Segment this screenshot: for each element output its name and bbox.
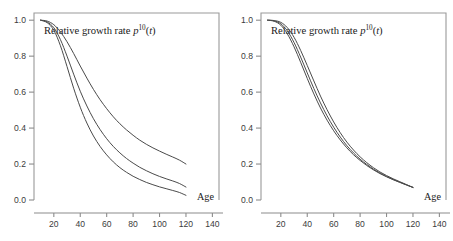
- x-tick-label: 100: [152, 219, 167, 229]
- y-tick-label: 0.6: [14, 87, 26, 97]
- x-tick-label: 20: [276, 219, 286, 229]
- data-curve-curve-outer: [268, 20, 413, 187]
- x-axis-label-right: Age: [424, 191, 441, 202]
- x-tick-label: 20: [49, 219, 59, 229]
- chart-svg-right: 20406080100120140 0.00.20.40.60.81.0 Rel…: [227, 0, 453, 241]
- y-tick-label: 0.8: [14, 51, 26, 61]
- x-tick-label: 80: [355, 219, 365, 229]
- y-tick-labels-right: 0.00.20.40.60.81.0: [241, 15, 253, 205]
- y-tick-label: 1.0: [14, 15, 26, 25]
- y-axis-right: [256, 20, 261, 200]
- y-tick-label: 0.2: [14, 159, 26, 169]
- x-tick-label: 60: [102, 219, 112, 229]
- y-tick-label: 0.2: [241, 159, 253, 169]
- y-axis-left: [29, 20, 34, 200]
- x-tick-label: 40: [302, 219, 312, 229]
- x-tick-label: 80: [128, 219, 138, 229]
- plot-title-left: Relative growth rate p10(t): [44, 24, 156, 37]
- x-axis-right: [261, 213, 450, 217]
- data-curve-curve-inner: [268, 20, 413, 187]
- data-curves-left: [41, 20, 186, 195]
- y-tick-label: 0.0: [14, 195, 26, 205]
- x-tick-label: 100: [379, 219, 394, 229]
- x-axis-label-left: Age: [197, 191, 214, 202]
- y-tick-label: 0.8: [241, 51, 253, 61]
- x-tick-labels-left: 20406080100120140: [49, 219, 220, 229]
- plot-frame-right: [261, 13, 446, 200]
- figure-container: 20406080100120140 0.00.20.40.60.81.0 Rel…: [0, 0, 453, 241]
- y-tick-label: 0.6: [241, 87, 253, 97]
- data-curve-curve-lower: [41, 20, 186, 195]
- x-tick-label: 140: [205, 219, 220, 229]
- x-tick-label: 120: [179, 219, 194, 229]
- x-tick-label: 120: [406, 219, 421, 229]
- x-tick-label: 40: [75, 219, 85, 229]
- x-tick-labels-right: 20406080100120140: [276, 219, 447, 229]
- y-tick-label: 0.4: [14, 123, 26, 133]
- y-tick-label: 1.0: [241, 15, 253, 25]
- chart-svg-left: 20406080100120140 0.00.20.40.60.81.0 Rel…: [0, 0, 226, 241]
- x-tick-label: 140: [432, 219, 447, 229]
- y-tick-label: 0.4: [241, 123, 253, 133]
- x-tick-label: 60: [329, 219, 339, 229]
- y-tick-labels-left: 0.00.20.40.60.81.0: [14, 15, 26, 205]
- y-tick-label: 0.0: [241, 195, 253, 205]
- data-curves-right: [268, 20, 413, 187]
- data-curve-curve-upper: [41, 20, 186, 164]
- x-axis-left: [34, 213, 223, 217]
- chart-panel-left: 20406080100120140 0.00.20.40.60.81.0 Rel…: [0, 0, 226, 241]
- chart-panel-right: 20406080100120140 0.00.20.40.60.81.0 Rel…: [227, 0, 453, 241]
- data-curve-curve-mid: [268, 20, 413, 187]
